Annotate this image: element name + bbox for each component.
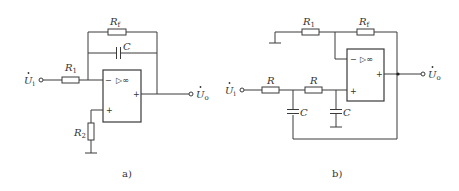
resistor-r1 <box>302 29 319 35</box>
label-r2: R2 <box>73 127 86 140</box>
opamp-symbol: ▷∞ <box>116 76 129 85</box>
junction-dot <box>396 72 399 75</box>
output-terminal <box>421 72 425 76</box>
phasor-dot-ui <box>229 82 231 84</box>
output-sign: + <box>376 70 383 79</box>
panel-b: R1 Rf − ▷∞ + + Uo Ui R R C <box>225 16 441 179</box>
label-r1: R1 <box>64 62 77 75</box>
caption-b: b) <box>332 168 342 179</box>
circuit-diagram: Rf C R1 Ui − ▷∞ + + Uo R2 a) <box>0 0 459 191</box>
resistor-rf <box>357 29 374 35</box>
input-terminal <box>240 88 244 92</box>
capacitor-c <box>116 47 121 59</box>
label-ui: Ui <box>225 85 236 98</box>
caption-a: a) <box>122 168 132 179</box>
capacitor-c-b <box>330 110 342 114</box>
opamp-symbol: ▷∞ <box>360 55 373 64</box>
panel-a: Rf C R1 Ui − ▷∞ + + Uo R2 a) <box>24 16 209 179</box>
resistor-r1 <box>62 77 79 83</box>
inverting-wire <box>335 32 347 59</box>
resistor-rf <box>108 29 126 35</box>
inverting-sign: − <box>350 55 357 64</box>
label-c-a: C <box>300 107 308 118</box>
noninverting-sign: + <box>350 87 357 96</box>
phasor-dot-uo <box>432 66 434 68</box>
phasor-dot-ui <box>28 72 30 74</box>
label-rf: Rf <box>109 16 122 29</box>
output-terminal <box>189 92 193 96</box>
inverting-sign: − <box>105 76 112 85</box>
label-rf: Rf <box>358 16 371 29</box>
label-uo: Uo <box>196 89 209 102</box>
resistor-r-b <box>305 87 322 93</box>
phasor-dot-uo <box>200 86 202 88</box>
noninverting-sign: + <box>106 106 113 115</box>
resistor-r-a <box>262 87 279 93</box>
resistor-r2 <box>88 123 94 140</box>
label-r-a: R <box>266 75 275 86</box>
label-r-b: R <box>309 75 318 86</box>
label-uo: Uo <box>428 69 441 82</box>
capacitor-c-a <box>287 110 299 114</box>
label-c: C <box>123 41 131 52</box>
input-terminal <box>39 78 43 82</box>
output-sign: + <box>133 90 140 99</box>
label-ui: Ui <box>24 75 35 88</box>
label-c-b: C <box>343 107 351 118</box>
label-r1: R1 <box>302 16 315 29</box>
